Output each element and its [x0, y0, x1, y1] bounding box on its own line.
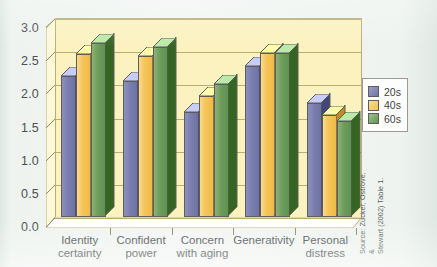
bar-top-face — [337, 112, 362, 122]
bar-40s-5[interactable] — [322, 115, 337, 217]
legend-label-20s: 20s — [384, 86, 401, 98]
bar-top-face — [307, 94, 332, 104]
bar-front — [275, 53, 290, 217]
bar-front — [184, 112, 199, 217]
bar-side-face — [289, 43, 299, 217]
bar-front — [322, 115, 337, 217]
x-axis-label-5: Personal distress — [295, 234, 356, 260]
bar-front — [123, 81, 138, 217]
bar-60s-5[interactable] — [337, 121, 352, 217]
y-tick-label: 2.5 — [21, 54, 39, 68]
bar-front — [76, 54, 91, 217]
bar-front — [245, 66, 260, 217]
bar-side-face — [105, 33, 115, 217]
x-tick-stub — [233, 228, 234, 235]
bar-front — [153, 47, 168, 217]
x-tick-stub — [356, 228, 357, 235]
bar-front — [61, 76, 76, 217]
bar-series-container — [46, 18, 362, 228]
bar-60s-1[interactable] — [91, 43, 106, 217]
bar-20s-1[interactable] — [61, 76, 76, 217]
bar-top-face — [214, 75, 239, 85]
bar-20s-3[interactable] — [184, 112, 199, 217]
legend-swatch-40s — [368, 100, 379, 111]
figure-canvas: 0.00.51.01.52.02.53.0 Identity certainty… — [0, 0, 437, 267]
bar-top-face — [275, 44, 300, 54]
y-tick-label: 0.5 — [21, 187, 39, 201]
legend-label-60s: 60s — [384, 113, 401, 125]
bar-front — [260, 53, 275, 217]
legend-label-40s: 40s — [384, 99, 401, 111]
bar-20s-4[interactable] — [245, 66, 260, 217]
plot-area: 0.00.51.01.52.02.53.0 Identity certainty… — [46, 18, 362, 228]
x-axis-label-1: Identity certainty — [49, 234, 110, 260]
bar-top-face — [91, 34, 116, 44]
bar-60s-4[interactable] — [275, 53, 290, 217]
bar-group — [61, 18, 106, 217]
bar-front — [138, 56, 153, 217]
x-tick-stub — [295, 228, 296, 235]
bar-40s-3[interactable] — [199, 96, 214, 217]
bar-40s-4[interactable] — [260, 53, 275, 217]
x-axis-label-2: Confident power — [110, 234, 171, 260]
bar-front — [214, 84, 229, 217]
x-tick-stub — [172, 228, 173, 235]
bar-front — [199, 96, 214, 217]
bar-group — [184, 18, 229, 217]
bar-20s-2[interactable] — [123, 81, 138, 217]
x-axis-label-3: Concern with aging — [172, 234, 233, 260]
x-axis-label-4: Generativity — [233, 234, 294, 247]
bar-group — [245, 18, 290, 217]
legend-item: 20s — [368, 86, 403, 98]
y-tick-label: 2.0 — [21, 87, 39, 101]
chart-legend: 20s 40s 60s — [362, 78, 408, 132]
bar-40s-1[interactable] — [76, 54, 91, 217]
bar-20s-5[interactable] — [307, 103, 322, 217]
bar-side-face — [167, 37, 177, 217]
bar-40s-2[interactable] — [138, 56, 153, 217]
bar-front — [91, 43, 106, 217]
bar-front — [307, 103, 322, 217]
y-tick-label: 3.0 — [21, 21, 39, 35]
y-tick-label: 1.0 — [21, 154, 39, 168]
legend-item: 40s — [368, 99, 403, 111]
legend-item: 60s — [368, 113, 403, 125]
y-tick-label: 1.5 — [21, 121, 39, 135]
legend-swatch-60s — [368, 113, 379, 124]
bar-group — [123, 18, 168, 217]
bar-side-face — [228, 74, 238, 217]
source-note: Source: Zucker, Ostrove, & Stewart (2002… — [358, 168, 380, 254]
y-tick-label: 0.0 — [21, 220, 39, 234]
bar-top-face — [153, 38, 178, 48]
bar-60s-2[interactable] — [153, 47, 168, 217]
bar-60s-3[interactable] — [214, 84, 229, 217]
bar-front — [337, 121, 352, 217]
x-tick-stub — [110, 228, 111, 235]
bar-group — [307, 18, 352, 217]
legend-swatch-20s — [368, 86, 379, 97]
